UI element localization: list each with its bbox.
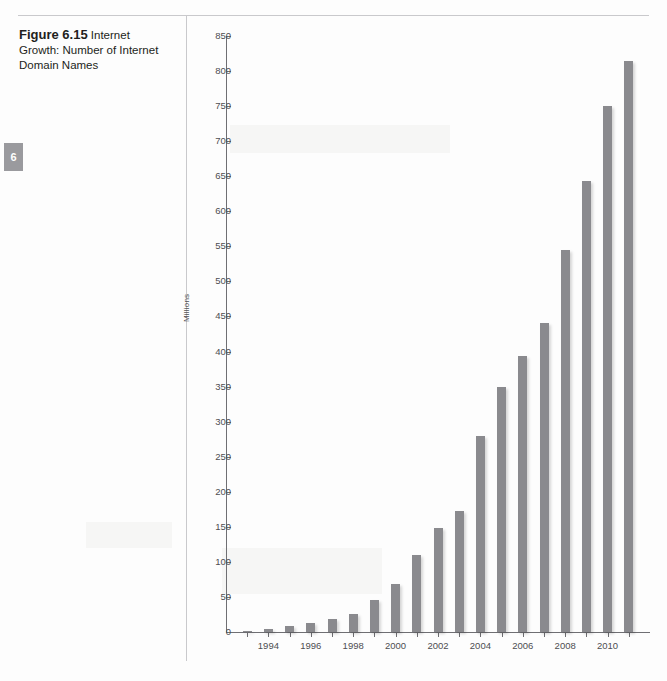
x-tick-label: 2010 bbox=[597, 640, 618, 651]
y-axis-line bbox=[226, 36, 227, 633]
y-tick-label: 450 bbox=[205, 310, 231, 321]
x-tick bbox=[353, 633, 354, 637]
column-divider bbox=[186, 16, 187, 661]
x-tick-label: 1998 bbox=[343, 640, 364, 651]
y-tick-label: 150 bbox=[205, 521, 231, 532]
page-canvas: 6 Figure 6.15 Internet Growth: Number of… bbox=[0, 0, 667, 681]
x-tick-label: 1994 bbox=[258, 640, 279, 651]
x-tick bbox=[565, 633, 566, 637]
y-tick-label: 700 bbox=[205, 135, 231, 146]
x-tick-label: 2006 bbox=[512, 640, 533, 651]
bar-chart: Millions 0501001502002503003504004505005… bbox=[196, 22, 658, 654]
bar bbox=[603, 106, 612, 632]
bar bbox=[561, 250, 570, 632]
x-tick bbox=[608, 633, 609, 637]
bar bbox=[455, 511, 464, 632]
y-tick-label: 600 bbox=[205, 205, 231, 216]
x-tick-label: 2002 bbox=[427, 640, 448, 651]
y-tick-label: 400 bbox=[205, 346, 231, 357]
x-tick bbox=[247, 633, 248, 637]
x-tick bbox=[417, 633, 418, 637]
y-tick-label: 100 bbox=[205, 556, 231, 567]
y-tick-label: 550 bbox=[205, 240, 231, 251]
chapter-tab: 6 bbox=[4, 143, 23, 171]
bar bbox=[476, 436, 485, 632]
bar bbox=[434, 528, 443, 632]
x-tick-label: 2000 bbox=[385, 640, 406, 651]
x-tick bbox=[523, 633, 524, 637]
y-tick-label: 300 bbox=[205, 416, 231, 427]
bar bbox=[264, 629, 273, 632]
bar bbox=[540, 323, 549, 632]
x-tick bbox=[332, 633, 333, 637]
x-tick bbox=[311, 633, 312, 637]
bar bbox=[391, 584, 400, 632]
y-tick-label: 650 bbox=[205, 170, 231, 181]
x-tick bbox=[586, 633, 587, 637]
bar bbox=[412, 555, 421, 632]
bar bbox=[285, 626, 294, 632]
bar bbox=[328, 619, 337, 632]
bar bbox=[370, 600, 379, 632]
y-tick-label: 800 bbox=[205, 65, 231, 76]
y-tick-label: 50 bbox=[205, 591, 231, 602]
y-tick-label: 850 bbox=[205, 30, 231, 41]
y-tick-label: 500 bbox=[205, 275, 231, 286]
x-tick-label: 2008 bbox=[555, 640, 576, 651]
y-tick-label: 250 bbox=[205, 451, 231, 462]
figure-caption: Figure 6.15 Internet Growth: Number of I… bbox=[19, 27, 171, 73]
bar bbox=[306, 623, 315, 632]
bar bbox=[243, 631, 252, 633]
bar bbox=[624, 61, 633, 632]
running-head bbox=[300, 0, 660, 12]
x-tick-label: 2004 bbox=[470, 640, 491, 651]
figure-number: Figure 6.15 bbox=[19, 27, 88, 42]
x-tick bbox=[268, 633, 269, 637]
x-tick bbox=[544, 633, 545, 637]
x-tick bbox=[290, 633, 291, 637]
y-tick-label: 0 bbox=[205, 626, 231, 637]
bar bbox=[582, 181, 591, 632]
x-tick bbox=[459, 633, 460, 637]
x-tick bbox=[480, 633, 481, 637]
x-tick bbox=[374, 633, 375, 637]
x-tick bbox=[396, 633, 397, 637]
x-tick bbox=[502, 633, 503, 637]
y-axis-label: Millions bbox=[182, 294, 191, 322]
y-tick-label: 200 bbox=[205, 486, 231, 497]
bar bbox=[497, 387, 506, 632]
x-tick-label: 1996 bbox=[300, 640, 321, 651]
y-tick-label: 350 bbox=[205, 381, 231, 392]
header-rule bbox=[18, 15, 649, 16]
x-tick bbox=[438, 633, 439, 637]
bar bbox=[518, 356, 527, 632]
scan-ghost bbox=[86, 522, 172, 548]
bar bbox=[349, 614, 358, 632]
y-tick-label: 750 bbox=[205, 100, 231, 111]
x-tick bbox=[629, 633, 630, 637]
